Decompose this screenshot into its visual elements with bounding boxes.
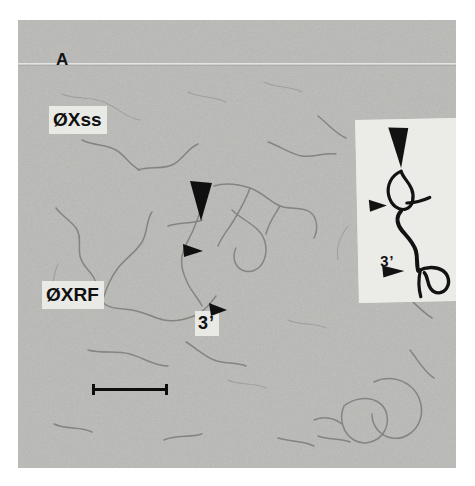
scale-bar-tick-right — [165, 384, 168, 395]
label-phix-single-strand: ØXss — [49, 106, 107, 134]
inset-three-prime-tail — [419, 271, 421, 297]
plate-seam-shadow — [18, 65, 456, 66]
scale-bar-line — [92, 388, 168, 391]
schematic-tracing-inset: 3’ — [355, 118, 456, 303]
figure-root: A ØXss ØXRF 3’ — [0, 0, 475, 486]
electron-micrograph-plate: A ØXss ØXRF 3’ — [18, 20, 456, 468]
inset-label-three-prime: 3’ — [380, 252, 395, 269]
label-phix-replicative-form: ØXRF — [42, 281, 104, 309]
scale-bar — [92, 384, 168, 394]
panel-letter-label: A — [56, 50, 68, 70]
large-arrowhead-icon — [188, 180, 214, 222]
inset-tracing-drawing — [355, 118, 456, 303]
small-arrowhead-lower-icon — [208, 302, 228, 317]
small-arrowhead-upper-icon — [182, 242, 204, 258]
